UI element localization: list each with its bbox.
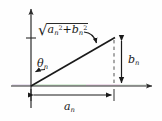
vertical-component-label: bn <box>128 54 139 66</box>
angle-label: θn <box>37 58 48 70</box>
theta-symbol: θ <box>37 57 44 70</box>
vector-decomposition-figure: √an2+bn2 θn bn an <box>0 0 162 121</box>
term-b-base: b <box>72 23 79 36</box>
theta-subscript: n <box>44 63 48 71</box>
magnitude-label: √an2+bn2 <box>38 23 88 38</box>
b-symbol: b <box>128 53 135 66</box>
radicand: an2+bn2 <box>47 23 89 36</box>
b-subscript: n <box>135 59 139 67</box>
a-subscript: n <box>71 106 75 114</box>
plus-operator: + <box>63 23 72 36</box>
horizontal-component-label: an <box>64 101 75 113</box>
term-b-exponent: 2 <box>83 24 87 32</box>
